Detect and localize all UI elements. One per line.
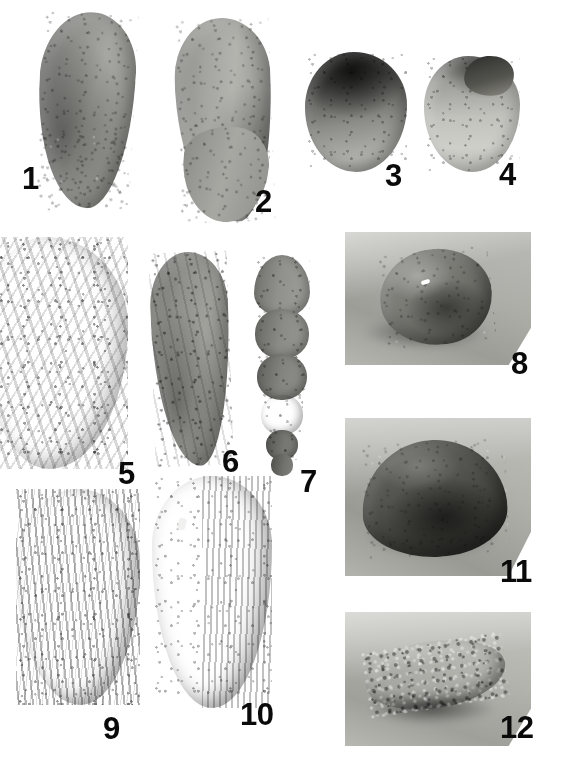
figure-label-9: 9 bbox=[103, 713, 120, 744]
specimen-figure-4 bbox=[424, 56, 520, 172]
figure-label-12: 12 bbox=[500, 712, 533, 743]
figure-label-1: 1 bbox=[22, 163, 39, 194]
specimen-figure-1 bbox=[38, 12, 134, 208]
figure-label-4: 4 bbox=[499, 159, 516, 190]
specimen-figure-6 bbox=[152, 252, 230, 466]
figure-label-8: 8 bbox=[511, 348, 528, 379]
figure-label-11: 11 bbox=[500, 556, 532, 587]
figure-label-10: 10 bbox=[240, 699, 273, 730]
figure-label-7: 7 bbox=[300, 466, 317, 497]
specimen-figure-3 bbox=[305, 52, 407, 172]
photo-panel-figure-11 bbox=[345, 418, 531, 576]
specimen-figure-10 bbox=[152, 476, 272, 708]
figure-label-2: 2 bbox=[255, 186, 272, 217]
specimen-figure-5 bbox=[0, 237, 128, 469]
figure-label-3: 3 bbox=[385, 160, 402, 191]
specimen-figure-7 bbox=[252, 255, 312, 477]
figure-label-5: 5 bbox=[118, 458, 135, 489]
figure-label-6: 6 bbox=[222, 446, 239, 477]
micrograph-plate: 1 2 3 4 5 6 bbox=[0, 0, 581, 761]
photo-panel-figure-8 bbox=[345, 232, 531, 365]
specimen-figure-9 bbox=[16, 489, 140, 705]
